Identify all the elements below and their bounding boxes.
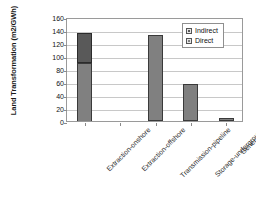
y-tickmark: [64, 97, 67, 98]
y-tickmark: [64, 84, 67, 85]
bar-segment-indirect[interactable]: [77, 33, 92, 62]
bar[interactable]: [219, 118, 234, 121]
y-tick-label: 140: [40, 28, 64, 35]
y-tick-label: 40: [40, 93, 64, 100]
y-tickmark: [64, 71, 67, 72]
plot-area: IndirectDirect: [66, 18, 243, 122]
bar-chart: Land Transformation (m2/GWh) 16014012010…: [0, 0, 256, 198]
legend-entry[interactable]: Indirect: [186, 27, 218, 34]
legend-swatch-indirect: [186, 28, 192, 34]
bar-slot: [148, 19, 163, 121]
legend-label: Indirect: [195, 27, 218, 34]
y-tickmark: [64, 58, 67, 59]
bar-slot: [77, 19, 92, 121]
y-tick-label: 80: [40, 67, 64, 74]
bar-segment-direct[interactable]: [148, 35, 163, 121]
bar[interactable]: [183, 84, 198, 121]
y-tickmark: [64, 110, 67, 111]
bar-segment-direct[interactable]: [77, 63, 92, 122]
chart-legend: IndirectDirect: [182, 23, 224, 48]
bar-segment-direct[interactable]: [219, 118, 234, 121]
bar-segment-direct[interactable]: [183, 84, 198, 121]
y-axis-title: Land Transformation (m2/GWh): [9, 0, 18, 126]
legend-label: Direct: [195, 37, 213, 44]
y-tickmark: [64, 19, 67, 20]
x-axis-tick-labels: Extraction-onshoreExtraction-offshoreTra…: [0, 122, 256, 198]
y-tick-label: 60: [40, 80, 64, 87]
bar[interactable]: [148, 35, 163, 121]
y-tickmark: [64, 32, 67, 33]
y-tick-label: 120: [40, 41, 64, 48]
legend-entry[interactable]: Direct: [186, 37, 218, 44]
y-tick-label: 160: [40, 15, 64, 22]
bar[interactable]: [77, 33, 92, 121]
y-tick-label: 20: [40, 106, 64, 113]
bar-slot: [113, 19, 128, 121]
legend-swatch-direct: [186, 38, 192, 44]
y-tick-label: 100: [40, 54, 64, 61]
y-tickmark: [64, 45, 67, 46]
x-tick-label: Generation: [239, 126, 256, 155]
